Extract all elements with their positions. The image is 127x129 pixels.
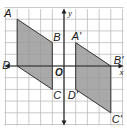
vertex-label: A <box>3 7 11 19</box>
x-axis-label: x <box>119 67 124 77</box>
origin-label: O <box>55 67 63 78</box>
vertex-label: A' <box>71 30 82 42</box>
vertex-label: C <box>53 89 61 101</box>
parallelogram-A'B'C'D' <box>76 43 111 113</box>
y-axis-arrow-up-icon <box>62 9 67 14</box>
vertex-label: B <box>53 31 60 43</box>
coordinate-plane: yxO ABCDA'B'C'D' <box>0 0 127 129</box>
vertex-label: D <box>2 59 10 71</box>
vertex-label: D' <box>68 89 79 101</box>
vertex-label: C' <box>112 113 123 125</box>
vertex-label: B' <box>114 54 124 66</box>
y-axis-label: y <box>67 8 72 18</box>
parallelogram-ABCD <box>17 19 52 89</box>
